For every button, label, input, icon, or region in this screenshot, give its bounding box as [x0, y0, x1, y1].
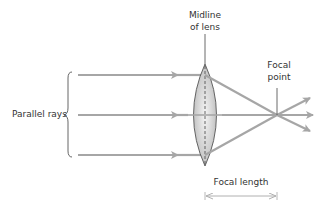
focal-point-label-line1: Focal: [267, 60, 290, 71]
focal-length-label: Focal length: [214, 177, 269, 188]
lens-diagram: Midline of lens Focal point Parallel ray…: [0, 0, 325, 214]
focal-length-dimension: [205, 192, 277, 200]
parallel-rays-label: Parallel rays: [12, 109, 67, 120]
diagram-canvas: [0, 0, 325, 214]
incoming-rays: [78, 75, 205, 155]
focal-point-label-line2: point: [268, 72, 291, 83]
midline-label-line1: Midline: [189, 10, 221, 21]
midline-label-line2: of lens: [190, 22, 220, 33]
